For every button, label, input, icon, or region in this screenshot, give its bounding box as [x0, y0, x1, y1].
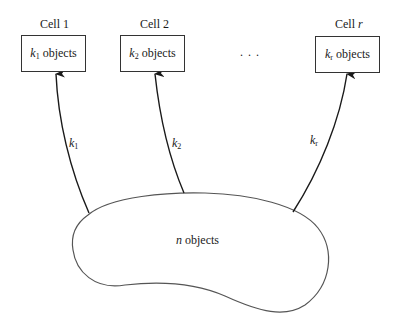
arrow-label-k2: k2 [172, 136, 181, 151]
cell-1-title: Cell 1 [40, 17, 69, 32]
cell-2-title: Cell 2 [140, 17, 169, 32]
cell-1-box: k1 objects [21, 35, 86, 72]
arrow-label-k1: k1 [69, 136, 78, 151]
cell-r-box: kr objects [315, 36, 380, 73]
arrow-k2 [155, 74, 184, 193]
ellipsis: . . . [240, 45, 260, 60]
cell-r-title: Cell r [335, 17, 363, 32]
arrow-kr [293, 74, 347, 212]
cell-2-box: k2 objects [120, 35, 185, 72]
source-label: n objects [176, 233, 219, 248]
arrow-label-kr: kr [310, 133, 318, 148]
objects-blob [72, 193, 328, 312]
